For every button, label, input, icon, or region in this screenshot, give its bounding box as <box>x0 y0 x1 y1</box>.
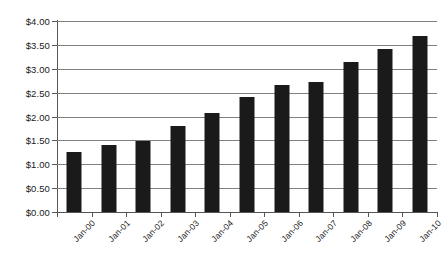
y-axis-tick <box>52 164 57 165</box>
y-axis-tick <box>52 93 57 94</box>
bar-slot <box>195 21 230 212</box>
x-axis-tick <box>299 212 300 217</box>
x-axis-tick <box>333 212 334 217</box>
x-axis-tick <box>92 212 93 217</box>
x-axis-tick <box>195 212 196 217</box>
bar <box>205 113 220 212</box>
bar <box>309 82 324 212</box>
bar-series <box>57 21 437 212</box>
bar <box>136 141 151 212</box>
bar <box>239 97 254 212</box>
y-axis-tick <box>52 212 57 213</box>
x-axis-tick <box>264 212 265 217</box>
x-axis-labels: Jan-00Jan-01Jan-02Jan-03Jan-04Jan-05Jan-… <box>57 218 447 275</box>
y-axis-tick <box>52 45 57 46</box>
y-axis-tick-label: $0.00 <box>26 207 50 218</box>
x-axis-tick <box>402 212 403 217</box>
bar-slot <box>333 21 368 212</box>
bar-slot <box>368 21 403 212</box>
bar-slot <box>264 21 299 212</box>
bar-slot <box>57 21 92 212</box>
bar-slot <box>92 21 127 212</box>
y-axis-labels: $0.00$0.50$1.00$1.50$2.00$2.50$3.00$3.50… <box>0 21 50 212</box>
bar-slot <box>126 21 161 212</box>
y-axis-tick <box>52 188 57 189</box>
y-axis-tick <box>52 117 57 118</box>
bar <box>412 36 427 212</box>
x-axis-tick <box>126 212 127 217</box>
y-axis-tick-label: $4.00 <box>26 16 50 27</box>
x-axis-tick-label: Jan-09 <box>382 218 408 244</box>
y-axis-tick-label: $2.00 <box>26 111 50 122</box>
y-axis-tick-label: $2.50 <box>26 87 50 98</box>
bar <box>274 85 289 212</box>
x-axis-tick-label: Jan-02 <box>141 218 167 244</box>
x-axis-tick-label: Jan-01 <box>106 218 132 244</box>
y-axis-tick <box>52 140 57 141</box>
y-axis-tick <box>52 69 57 70</box>
y-axis-tick <box>52 21 57 22</box>
y-axis-tick-label: $3.50 <box>26 39 50 50</box>
x-axis-tick <box>368 212 369 217</box>
plot-area <box>57 21 437 212</box>
bar <box>67 152 82 212</box>
x-axis-tick <box>437 212 438 217</box>
bar-slot <box>161 21 196 212</box>
bar <box>170 126 185 212</box>
y-axis-tick-label: $1.50 <box>26 135 50 146</box>
y-axis-tick-label: $1.00 <box>26 159 50 170</box>
x-axis-tick-label: Jan-06 <box>279 218 305 244</box>
bar-slot <box>299 21 334 212</box>
y-axis-tick-label: $0.50 <box>26 183 50 194</box>
bar <box>101 145 116 212</box>
x-axis-tick-label: Jan-05 <box>244 218 270 244</box>
x-axis-tick-label: Jan-07 <box>313 218 339 244</box>
x-axis-tick-label: Jan-08 <box>348 218 374 244</box>
x-axis-tick <box>230 212 231 217</box>
x-axis-tick-label: Jan-04 <box>210 218 236 244</box>
x-axis-tick <box>161 212 162 217</box>
x-axis-tick-label: Jan-03 <box>175 218 201 244</box>
bar <box>343 62 358 212</box>
x-axis-tick-label: Jan-10 <box>417 218 443 244</box>
bar-chart: $0.00$0.50$1.00$1.50$2.00$2.50$3.00$3.50… <box>0 0 448 275</box>
bar <box>378 49 393 212</box>
y-axis-tick-label: $3.00 <box>26 63 50 74</box>
bar-slot <box>230 21 265 212</box>
x-axis-tick-label: Jan-00 <box>71 218 97 244</box>
bar-slot <box>402 21 437 212</box>
x-axis-tick <box>57 212 58 217</box>
